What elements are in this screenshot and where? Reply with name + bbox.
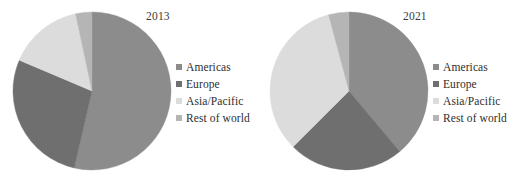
year-label-2013: 2013 bbox=[146, 10, 206, 22]
legend-label-europe: Europe bbox=[186, 76, 220, 92]
legend-swatch-europe bbox=[176, 81, 182, 87]
year-label-2021: 2021 bbox=[403, 10, 463, 22]
legend-label-americas: Americas bbox=[443, 59, 488, 75]
legend-2021: Americas Europe Asia/Pacific Rest of wor… bbox=[433, 59, 513, 127]
legend-label-rest-of-world: Rest of world bbox=[443, 110, 507, 126]
legend-item-americas[interactable]: Americas bbox=[433, 59, 513, 75]
legend-label-europe: Europe bbox=[443, 76, 477, 92]
pie-chart-figure: 2013 Americas Europe Asia/Pacific Rest o… bbox=[0, 0, 515, 181]
legend-swatch-americas bbox=[433, 64, 439, 70]
pie-chart-2013 bbox=[12, 11, 172, 171]
legend-2013: Americas Europe Asia/Pacific Rest of wor… bbox=[176, 59, 256, 127]
legend-item-europe[interactable]: Europe bbox=[433, 76, 513, 92]
legend-swatch-rest-of-world bbox=[433, 115, 439, 121]
legend-swatch-europe bbox=[433, 81, 439, 87]
chart-panel-2013: 2013 Americas Europe Asia/Pacific Rest o… bbox=[0, 0, 257, 181]
legend-label-rest-of-world: Rest of world bbox=[186, 110, 250, 126]
legend-label-americas: Americas bbox=[186, 59, 231, 75]
legend-item-asia-pacific[interactable]: Asia/Pacific bbox=[433, 93, 513, 109]
legend-swatch-asia-pacific bbox=[176, 98, 182, 104]
legend-item-asia-pacific[interactable]: Asia/Pacific bbox=[176, 93, 256, 109]
legend-item-rest-of-world[interactable]: Rest of world bbox=[433, 110, 513, 126]
legend-swatch-asia-pacific bbox=[433, 98, 439, 104]
legend-item-europe[interactable]: Europe bbox=[176, 76, 256, 92]
pie-chart-2021 bbox=[269, 11, 429, 171]
legend-item-americas[interactable]: Americas bbox=[176, 59, 256, 75]
legend-label-asia-pacific: Asia/Pacific bbox=[443, 93, 500, 109]
legend-item-rest-of-world[interactable]: Rest of world bbox=[176, 110, 256, 126]
chart-panel-2021: 2021 Americas Europe Asia/Pacific Rest o… bbox=[257, 0, 514, 181]
legend-label-asia-pacific: Asia/Pacific bbox=[186, 93, 243, 109]
legend-swatch-rest-of-world bbox=[176, 115, 182, 121]
legend-swatch-americas bbox=[176, 64, 182, 70]
